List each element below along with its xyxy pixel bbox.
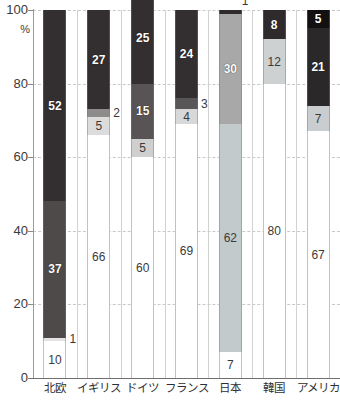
y-tick-label-0: 0 — [0, 371, 28, 384]
bar-segment[interactable]: 15 — [131, 84, 154, 139]
segment-value-label: 12 — [268, 56, 281, 68]
segment-value-label: 15 — [136, 105, 149, 117]
bar-segment[interactable]: 1 — [219, 10, 242, 14]
category-label-北欧: 北欧 — [33, 382, 77, 395]
bar-イギリス[interactable]: 665227 — [87, 10, 110, 378]
segment-value-label: 7 — [227, 359, 234, 371]
bar-segment[interactable]: 5 — [131, 139, 154, 157]
bar-フランス[interactable]: 694324 — [175, 10, 198, 378]
segment-value-label: 10 — [48, 354, 61, 366]
bar-segment[interactable]: 4 — [175, 109, 198, 124]
y-axis-unit-label: % — [6, 23, 30, 35]
segment-value-label: 60 — [136, 262, 149, 274]
segment-value-label: 69 — [180, 245, 193, 257]
category-label-韓国: 韓国 — [252, 382, 296, 395]
category-label-イギリス: イギリス — [77, 382, 121, 395]
bar-segment[interactable]: 10 — [43, 341, 66, 378]
bar-韓国[interactable]: 80128 — [263, 10, 286, 378]
segment-value-label: 24 — [180, 48, 193, 60]
bar-segment[interactable]: 67 — [307, 131, 330, 378]
segment-value-label: 5 — [315, 13, 322, 25]
bar-segment[interactable]: 21 — [307, 28, 330, 105]
bar-アメリカ[interactable]: 677215 — [307, 10, 330, 378]
category-label-ドイツ: ドイツ — [121, 382, 165, 395]
y-tick-label-80: 80 — [0, 77, 28, 90]
segment-value-label: 8 — [271, 19, 278, 31]
segment-value-label: 80 — [268, 225, 281, 237]
bar-北欧[interactable]: 1013752 — [43, 10, 66, 378]
segment-value-label: 5 — [139, 142, 146, 154]
segment-value-label: 2 — [113, 107, 120, 119]
bar-segment[interactable]: 2 — [87, 109, 110, 116]
segment-value-label: 5 — [95, 120, 102, 132]
segment-value-label: 21 — [311, 61, 324, 73]
bar-segment[interactable]: 66 — [87, 135, 110, 378]
bar-segment[interactable]: 69 — [175, 124, 198, 378]
stacked-bar-chart: % 020406080100 1013752665227605152569432… — [0, 0, 340, 412]
y-tick-label-100: 100 — [0, 3, 28, 16]
bar-segment[interactable]: 25 — [131, 0, 154, 84]
segment-value-label: 66 — [92, 251, 105, 263]
y-tick-label-20: 20 — [0, 297, 28, 310]
bar-segment[interactable]: 30 — [219, 14, 242, 124]
bar-segment[interactable]: 37 — [43, 201, 66, 337]
bar-日本[interactable]: 762301 — [219, 10, 242, 378]
category-label-日本: 日本 — [208, 382, 252, 395]
segment-value-label: 52 — [48, 100, 61, 112]
bar-segment[interactable]: 3 — [175, 98, 198, 109]
segment-value-label: 27 — [92, 54, 105, 66]
x-axis-line — [30, 378, 340, 379]
segment-value-label: 1 — [69, 333, 76, 345]
segment-value-label: 3 — [201, 98, 208, 110]
bar-segment[interactable]: 7 — [219, 352, 242, 378]
bar-segment[interactable]: 8 — [263, 10, 286, 39]
bar-segment[interactable]: 24 — [175, 10, 198, 98]
segment-value-label: 37 — [48, 263, 61, 275]
segment-value-label: 30 — [224, 63, 237, 75]
y-tick-label-60: 60 — [0, 150, 28, 163]
bar-ドイツ[interactable]: 6051525 — [131, 10, 154, 378]
category-label-フランス: フランス — [165, 382, 209, 395]
segment-value-label: 25 — [136, 32, 149, 44]
bar-segment[interactable]: 5 — [87, 117, 110, 135]
bar-segment[interactable]: 27 — [87, 10, 110, 109]
bar-segment[interactable]: 52 — [43, 10, 66, 201]
segment-value-label: 4 — [183, 111, 190, 123]
bar-segment[interactable]: 80 — [263, 84, 286, 378]
category-label-アメリカ: アメリカ — [296, 382, 340, 395]
segment-value-label: 67 — [311, 249, 324, 261]
y-tick-label-40: 40 — [0, 224, 28, 237]
segment-value-label: 1 — [242, 0, 249, 7]
plot-area: 1013752665227605152569432476230180128677… — [33, 10, 340, 378]
bar-segment[interactable]: 62 — [219, 124, 242, 352]
segment-value-label: 7 — [315, 113, 322, 125]
segment-value-label: 62 — [224, 232, 237, 244]
bar-segment[interactable]: 7 — [307, 106, 330, 132]
bar-segment[interactable]: 60 — [131, 157, 154, 378]
bar-segment[interactable]: 12 — [263, 39, 286, 83]
bar-segment[interactable]: 1 — [43, 338, 66, 342]
bar-segment[interactable]: 5 — [307, 10, 330, 28]
